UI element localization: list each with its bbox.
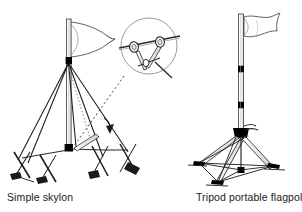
figure-root: Simple skylon Tripod portable flagpole: [0, 0, 302, 212]
banner-flag: [244, 13, 280, 37]
ground-stake-pair-right: [120, 144, 140, 175]
ground-stake-pair-right-inner: [88, 146, 108, 179]
right-panel-tripod-flagpole: [188, 13, 285, 186]
left-panel-simple-skylon: [10, 18, 180, 184]
pole-clamp-lower: [238, 102, 244, 108]
caption-simple-skylon: Simple skylon: [7, 191, 73, 203]
pennant-flag: [70, 22, 115, 57]
pole-clamp-upper: [238, 66, 244, 72]
direction-arrow: [104, 118, 114, 134]
tripod-legs: [199, 136, 273, 183]
ground-stake-pair-left-inner: [36, 155, 56, 184]
illustration-canvas: [0, 0, 302, 212]
caption-tripod-portable-flagpole: Tripod portable flagpole: [196, 191, 302, 203]
ground-tension-lines: [22, 149, 128, 158]
telescoping-pole: [238, 14, 244, 136]
clamp-detail-circle: [119, 18, 180, 78]
base-brace: [74, 134, 99, 151]
